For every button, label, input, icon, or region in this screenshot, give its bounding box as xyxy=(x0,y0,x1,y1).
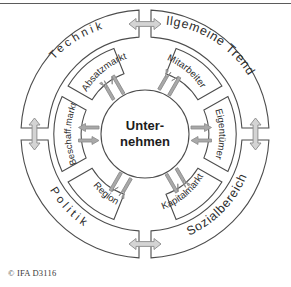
outer-gap-arrow-top xyxy=(129,19,161,30)
inner-segment-eigentuemer[interactable] xyxy=(204,96,236,171)
top-divider-rule xyxy=(0,3,291,4)
diagram-stage: Technik Allgemeine Trends Politik Sozial… xyxy=(0,8,291,260)
outer-gap-arrow-right xyxy=(250,118,261,150)
ring-diagram-svg: Technik Allgemeine Trends Politik Sozial… xyxy=(0,8,291,260)
center-label-line1: Unter- xyxy=(126,118,164,133)
figure-caption: © IFA D3116 xyxy=(8,268,56,278)
outer-gap-arrow-left xyxy=(29,118,40,150)
center-label-line2: nehmen xyxy=(120,134,170,149)
outer-gap-arrow-bottom xyxy=(129,239,161,250)
